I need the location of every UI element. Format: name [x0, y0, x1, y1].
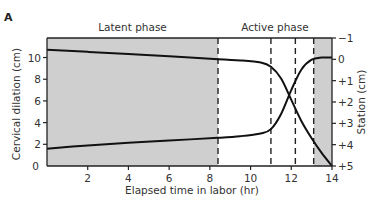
y-tick-label-right: +3 — [338, 117, 353, 129]
x-origin-label: 0 — [32, 160, 39, 172]
y-tick-label-left: 8 — [34, 73, 41, 85]
panel-label: A — [4, 11, 13, 24]
y-tick-label-left: 2 — [34, 138, 41, 150]
x-tick-label: 12 — [285, 172, 298, 184]
y-tick-label-right: +4 — [338, 139, 354, 151]
y-tick-label-right: −1 — [338, 32, 353, 44]
x-tick-label: 8 — [207, 172, 214, 184]
y-tick-label-left: 4 — [34, 117, 41, 129]
x-axis-title: Elapsed time in labor (hr) — [125, 184, 259, 196]
x-tick-label: 2 — [84, 172, 91, 184]
y-axis-title-right: Station (cm) — [355, 70, 367, 135]
x-tick-label: 6 — [166, 172, 173, 184]
y-tick-label-left: 10 — [28, 52, 41, 64]
x-tick-label: 10 — [244, 172, 257, 184]
y-tick-label-right: 0 — [338, 53, 345, 65]
y-tick-label-right: +1 — [338, 75, 353, 87]
y-axis-title-left: Cervical dilation (cm) — [10, 48, 22, 160]
phase-label-latent: Latent phase — [98, 21, 167, 33]
x-tick-label: 4 — [125, 172, 132, 184]
y-tick-label-right: +5 — [338, 160, 353, 172]
y-tick-label-left: 6 — [34, 95, 41, 107]
x-tick-label: 14 — [325, 172, 339, 184]
labor-progress-chart: 02468101214246810−10+1+2+3+4+5 A Latent … — [0, 0, 382, 209]
y-tick-label-right: +2 — [338, 96, 353, 108]
phase-divider-lines — [218, 38, 314, 166]
phase-label-active: Active phase — [241, 21, 309, 33]
